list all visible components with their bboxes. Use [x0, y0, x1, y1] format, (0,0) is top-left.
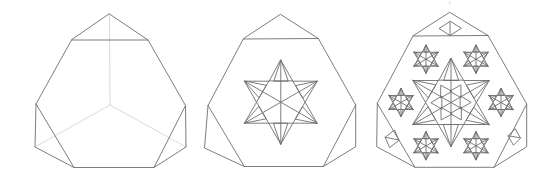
bottom-left-face-diamond-diagonal [385, 137, 399, 140]
iteration-2-star-cluster-truncation-edge [377, 103, 415, 167]
iteration-1-single-star-truncation-edge [243, 39, 318, 40]
iteration-0-truncated-tetrahedron-hidden-edge [35, 105, 110, 147]
iteration-0-truncated-tetrahedron [35, 14, 186, 168]
iteration-1-single-star [205, 15, 356, 167]
central-star-spike-facet [466, 107, 489, 124]
iteration-0-truncated-tetrahedron-truncation-edge [154, 106, 186, 168]
central-star-spike-facet [244, 107, 266, 124]
central-star-spike-facet [244, 81, 266, 98]
scanned-diagram-page [0, 0, 555, 186]
central-star-spike-facet [295, 107, 317, 124]
iteration-1-single-star-truncation-edge [208, 106, 244, 167]
iteration-1-single-star-truncation-edge [323, 105, 355, 167]
iteration-2-star-cluster [377, 2, 527, 168]
iteration-0-truncated-tetrahedron-hidden-edge [110, 14, 111, 105]
iteration-0-truncated-tetrahedron-silhouette [35, 14, 186, 168]
central-star-core-facet [460, 96, 471, 109]
central-star-core-facet [431, 96, 442, 109]
fractal-truncated-tetrahedron-sequence [0, 0, 555, 186]
central-star-spike-facet [295, 81, 317, 98]
central-star-spike-facet [466, 81, 489, 98]
central-star-spike-facet [413, 81, 436, 98]
central-star-spike-facet [413, 107, 436, 124]
